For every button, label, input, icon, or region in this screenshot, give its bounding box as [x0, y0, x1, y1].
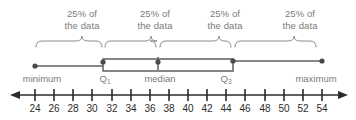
brace-segment-4 [235, 36, 316, 47]
label-q1: Q1 [90, 74, 120, 85]
label-q1-subscript: 1 [107, 78, 111, 85]
label-median-text: median [144, 73, 175, 84]
median-marker [155, 59, 160, 64]
axis-arrow-right [338, 91, 348, 99]
tick-label-54: 54 [309, 103, 335, 114]
brace-segment-1 [36, 36, 102, 47]
quartile-box [103, 59, 233, 71]
box-plot-graphics [0, 0, 356, 120]
brace-segment-2 [105, 36, 157, 47]
label-maximum-text: maximum [295, 73, 336, 84]
label-q3-text: Q [220, 73, 227, 84]
q1-marker [100, 59, 105, 64]
label-q3: Q3 [211, 74, 241, 85]
axis-arrow-left [10, 91, 20, 99]
q3-marker [230, 58, 235, 63]
label-minimum: minimum [12, 74, 72, 84]
minimum-marker [32, 63, 37, 68]
label-maximum: maximum [285, 74, 347, 84]
label-q3-subscript: 3 [228, 78, 232, 85]
label-minimum-text: minimum [23, 73, 62, 84]
maximum-marker [319, 58, 324, 63]
label-median: median [133, 74, 187, 84]
brace-segment-3 [160, 36, 231, 47]
box-plot-figure: 25% of the data 25% of the data 25% of t… [0, 0, 356, 120]
label-q1-text: Q [99, 73, 106, 84]
